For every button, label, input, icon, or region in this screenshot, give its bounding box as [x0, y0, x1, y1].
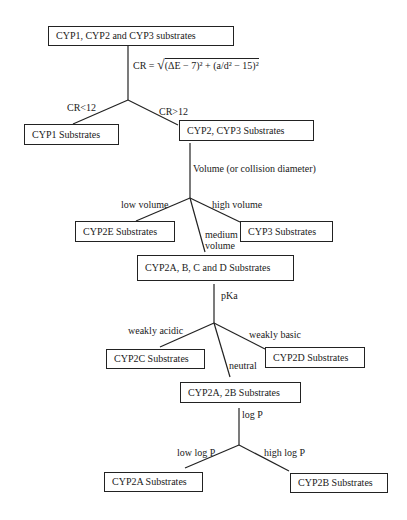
- node-cyp2a-2b: CYP2A, 2B Substrates: [180, 382, 301, 403]
- node-cyp2e: CYP2E Substrates: [75, 221, 175, 242]
- criterion-logp: log P: [242, 409, 263, 420]
- cr-formula: CR = √(ΔE − 7)² + (a/d² − 15)²: [133, 57, 259, 73]
- node-cyp2a: CYP2A Substrates: [104, 472, 203, 492]
- edge-cr-low: CR<12: [67, 102, 96, 113]
- cr-formula-prefix: CR =: [133, 60, 157, 71]
- edge-neutral: neutral: [229, 360, 257, 371]
- node-root: CYP1, CYP2 and CYP3 substrates: [48, 26, 234, 46]
- node-cyp2c: CYP2C Substrates: [106, 349, 205, 369]
- edge-medium-volume-1: medium: [205, 229, 238, 240]
- edge-high-volume: high volume: [212, 199, 262, 210]
- sqrt-icon: √: [157, 57, 165, 72]
- node-cyp3: CYP3 Substrates: [240, 221, 333, 242]
- edge-weakly-basic: weakly basic: [249, 329, 301, 340]
- edge-cr-high: CR>12: [159, 106, 188, 117]
- node-cyp2b: CYP2B Substrates: [290, 473, 388, 493]
- edge-high-logp: high log P: [264, 447, 305, 458]
- criterion-pka: pKa: [221, 290, 238, 301]
- node-cyp2abcd: CYP2A, B, C and D Substrates: [137, 255, 294, 281]
- node-cyp1: CYP1 Substrates: [24, 124, 119, 145]
- edge-medium-volume-2: volume: [205, 240, 235, 251]
- node-cyp2-cyp3: CYP2, CYP3 Substrates: [179, 120, 314, 141]
- edge-low-volume: low volume: [121, 199, 169, 210]
- edge-weakly-acidic: weakly acidic: [128, 325, 183, 336]
- edge-low-logp: low log P: [177, 447, 215, 458]
- cr-formula-body: (ΔE − 7)² + (a/d² − 15)²: [165, 58, 259, 71]
- criterion-volume: Volume (or collision diameter): [193, 163, 316, 174]
- node-cyp2d: CYP2D Substrates: [265, 347, 365, 368]
